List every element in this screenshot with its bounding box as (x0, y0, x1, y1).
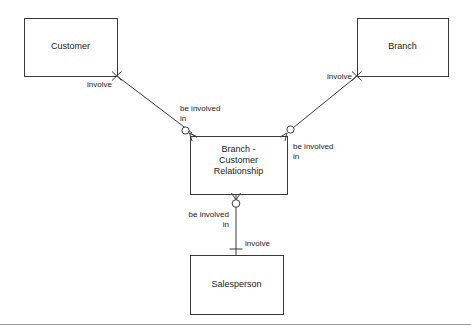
optionality-circle-bottom (232, 200, 240, 208)
entity-box-customer[interactable] (25, 19, 118, 77)
edge-label-be-involved-in-bottom: be involved in (163, 210, 229, 230)
edge-label-involve-salesperson: involve (245, 239, 297, 249)
optionality-circle-right (287, 126, 294, 133)
edge-label-be-involved-in-left: be involved in (180, 104, 246, 124)
edge-label-involve-customer: involve (56, 80, 112, 90)
diagram-vector-layer (0, 0, 471, 331)
er-diagram-canvas: Customer Branch Branch - Customer Relati… (0, 0, 471, 331)
edge-label-involve-branch: involve (300, 72, 352, 82)
entity-box-branch-customer-relationship[interactable] (191, 137, 288, 195)
entity-box-branch[interactable] (358, 19, 449, 77)
optionality-circle-left (182, 127, 189, 134)
connector-line-branch-relationship[interactable] (288, 76, 357, 132)
edge-label-be-involved-in-right: be involved in (293, 142, 359, 162)
entity-box-salesperson[interactable] (191, 256, 284, 315)
